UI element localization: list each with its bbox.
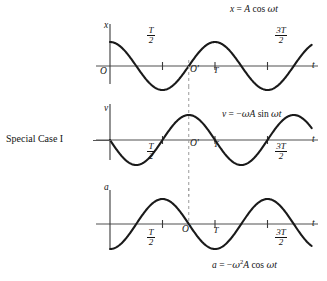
tick-denominator: 2 <box>147 237 154 247</box>
tick-denominator: 2 <box>275 237 287 247</box>
figure-canvas: x = A cos ωt x t O O′ T2 T 3T2 v = −ωA s… <box>0 0 327 281</box>
acceleration-x-axis-label: t <box>312 218 315 228</box>
tick-numerator: 3T <box>275 228 287 237</box>
acceleration-shifted-origin-label: O′ <box>182 224 191 234</box>
acceleration-tick-T: T <box>210 226 222 235</box>
acceleration-tick-half-T: T2 <box>142 228 160 247</box>
acceleration-y-axis-label: a <box>104 182 109 192</box>
tick-numerator: T <box>147 228 154 237</box>
acceleration-tick-three-half-T: 3T2 <box>270 228 292 247</box>
acceleration-equation: a = −ω2A cos ωt <box>212 258 277 270</box>
